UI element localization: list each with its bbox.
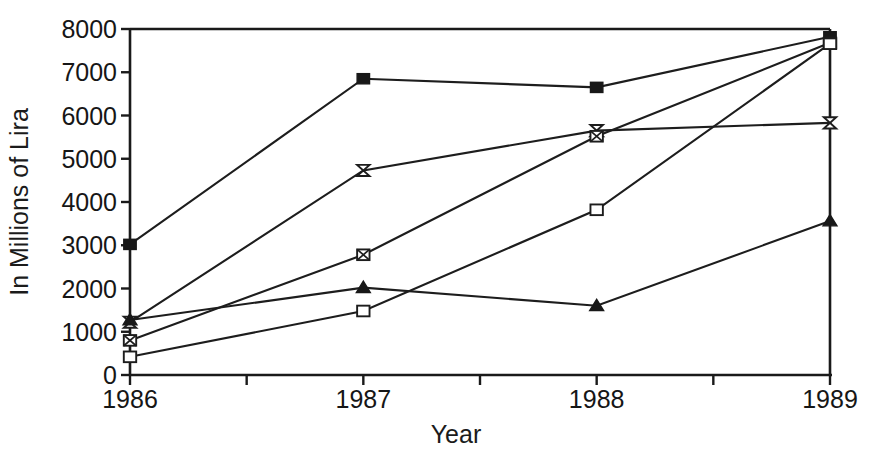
series-filled-triangle [123,215,837,325]
y-tick-label: 4000 [61,188,117,216]
x-tick-labels: 1986198719881989 [102,385,858,413]
series-polyline [130,37,830,245]
axes-lines [130,29,832,375]
marker-open-square [590,204,602,215]
line-chart-canvas: In Millions of Lira 01000200030004000500… [0,0,878,459]
series-polyline [130,123,830,322]
marker-filled-square [590,82,602,92]
y-tick-label: 1000 [61,318,117,346]
marker-crossed-square [357,249,369,260]
x-tick-marks [130,375,830,385]
data-series-group [123,32,837,362]
x-axis-title-group: Year [431,420,482,448]
y-tick-label: 8000 [61,15,117,43]
series-polyline [130,44,830,357]
marker-filled-square [124,239,136,249]
series-open-square [124,38,836,362]
y-tick-label: 7000 [61,58,117,86]
y-tick-label: 2000 [61,275,117,303]
marker-open-square [357,306,369,317]
x-axis-title: Year [431,420,482,448]
x-tick-label: 1986 [102,385,158,413]
x-tick-label: 1988 [569,385,625,413]
series-polyline [130,221,830,320]
y-tick-label: 6000 [61,102,117,130]
marker-filled-square [357,74,369,84]
y-axis-title: In Millions of Lira [5,108,33,296]
series-filled-square [124,32,836,250]
y-tick-label: 5000 [61,145,117,173]
chart-figure: In Millions of Lira 01000200030004000500… [0,0,878,459]
marker-filled-triangle [823,215,837,226]
marker-crossed-square [124,335,136,346]
y-axis-title-group: In Millions of Lira [5,108,33,296]
y-tick-label: 3000 [61,231,117,259]
marker-open-square [824,38,836,49]
y-tick-labels: 010002000300040005000600070008000 [61,15,117,389]
marker-open-square [124,352,136,363]
x-tick-label: 1987 [336,385,392,413]
marker-crossed-square [590,131,602,142]
marker-filled-triangle [356,281,370,292]
x-tick-label: 1989 [802,385,858,413]
